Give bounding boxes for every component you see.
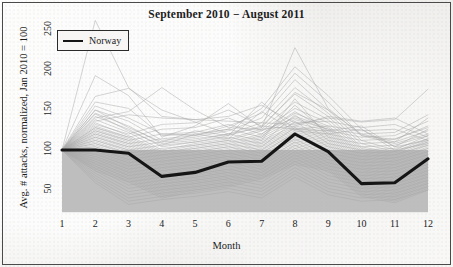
legend-box: Norway bbox=[57, 30, 129, 51]
y-axis-tick-label: 100 bbox=[42, 136, 53, 162]
x-axis-tick-label: 1 bbox=[52, 218, 72, 229]
y-axis-tick-label: 150 bbox=[42, 96, 53, 122]
x-axis-tick-label: 7 bbox=[252, 218, 272, 229]
y-axis-tick-label: 250 bbox=[42, 16, 53, 42]
x-axis-tick-label: 5 bbox=[185, 218, 205, 229]
x-axis-tick-label: 12 bbox=[418, 218, 438, 229]
x-axis-tick-label: 2 bbox=[85, 218, 105, 229]
figure-canvas: September 2010 − August 2011 Avg. # atta… bbox=[0, 0, 453, 267]
legend-line-swatch-norway bbox=[63, 40, 83, 42]
x-axis-tick-label: 11 bbox=[385, 218, 405, 229]
legend-label-norway: Norway bbox=[89, 35, 121, 46]
x-axis-tick-label: 6 bbox=[218, 218, 238, 229]
x-axis-tick-label: 3 bbox=[119, 218, 139, 229]
y-axis-tick-label: 200 bbox=[42, 56, 53, 82]
x-axis-tick-label: 10 bbox=[351, 218, 371, 229]
y-axis-tick-label: 50 bbox=[42, 176, 53, 202]
x-axis-tick-label: 8 bbox=[285, 218, 305, 229]
x-axis-tick-label: 4 bbox=[152, 218, 172, 229]
x-axis-tick-label: 9 bbox=[318, 218, 338, 229]
